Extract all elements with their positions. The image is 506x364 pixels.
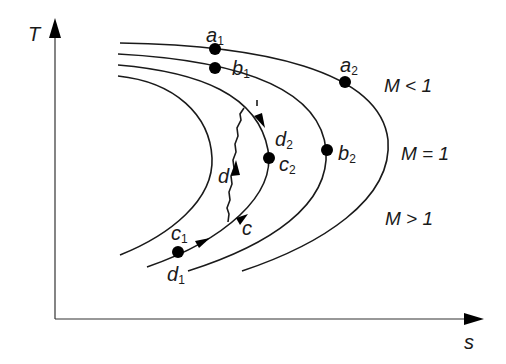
point-b1: [209, 62, 221, 74]
label-b1: b1: [232, 57, 250, 81]
ts-diagram: T s a1 b1 a2: [0, 0, 506, 364]
arrow-d-up-icon: [231, 160, 240, 176]
s-axis-arrow-icon: [464, 313, 484, 325]
label-m-greater-1: M > 1: [385, 208, 433, 229]
label-b2: b2: [338, 142, 356, 166]
label-path-c: c: [242, 217, 252, 239]
label-m-eq-1: M = 1: [401, 143, 449, 164]
curve-1: [118, 76, 212, 255]
point-labels: a1 b1 a2 b2 d2 c2 c1 d1 d c: [167, 24, 358, 287]
label-m-less-1: M < 1: [384, 75, 432, 96]
axes: [49, 18, 484, 325]
s-axis-label: s: [464, 331, 474, 353]
label-path-d: d: [218, 165, 230, 187]
point-c2: [263, 152, 275, 164]
label-c1: c1: [171, 222, 188, 246]
point-b2: [321, 144, 333, 156]
label-a1: a1: [206, 24, 224, 48]
label-d2: d2: [275, 128, 293, 152]
t-axis-label: T: [28, 23, 42, 45]
diagram-svg: T s a1 b1 a2: [0, 0, 506, 364]
label-a2: a2: [340, 54, 358, 78]
label-d1: d1: [167, 263, 185, 287]
t-axis-arrow-icon: [49, 18, 61, 38]
point-a2: [339, 76, 351, 88]
label-c2: c2: [279, 153, 296, 177]
point-c1: [172, 246, 184, 258]
arrow-c1-icon: [195, 238, 210, 248]
